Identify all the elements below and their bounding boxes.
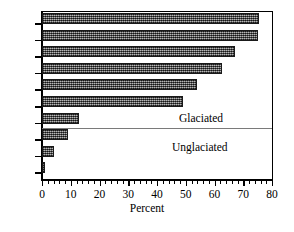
bar-fill: [42, 129, 68, 140]
x-tick-minor: [203, 180, 204, 184]
bar-dk: [42, 162, 45, 173]
x-tick-minor: [65, 180, 66, 184]
y-tick: [35, 156, 42, 158]
bar-df: [42, 46, 235, 57]
x-tick-minor: [123, 180, 124, 184]
x-tick-minor: [48, 180, 49, 184]
bar-ch: [42, 113, 79, 124]
bar-fl: [42, 96, 183, 107]
x-tick-major: [71, 180, 72, 186]
bar-ra: [42, 30, 258, 41]
bar-wf: [42, 63, 222, 74]
bar-fill: [42, 96, 183, 107]
x-tick-minor: [197, 180, 198, 184]
x-axis-title: Percent: [0, 202, 294, 214]
x-tick-label-30: 30: [113, 188, 143, 200]
x-tick-label-50: 50: [171, 188, 201, 200]
x-tick-label-60: 60: [200, 188, 230, 200]
x-tick-minor: [163, 180, 164, 184]
x-tick-minor: [140, 180, 141, 184]
bar-fill: [42, 113, 79, 124]
x-tick-minor: [220, 180, 221, 184]
x-tick-minor: [59, 180, 60, 184]
x-tick-minor: [134, 180, 135, 184]
x-tick-label-40: 40: [142, 188, 172, 200]
x-tick-minor: [82, 180, 83, 184]
y-tick: [35, 40, 42, 42]
annotation-unglaciated: Unglaciated: [172, 141, 228, 153]
bar-fill: [42, 146, 54, 157]
y-tick: [35, 56, 42, 58]
bar-sb: [42, 129, 68, 140]
bar-chart: TLRADFWFHFFLCHSBCPDK 01020304050607080 G…: [0, 0, 294, 232]
x-tick-minor: [77, 180, 78, 184]
bar-fill: [42, 162, 45, 173]
bar-hf: [42, 79, 197, 90]
bar-cp: [42, 146, 54, 157]
x-tick-label-70: 70: [228, 188, 258, 200]
x-tick-minor: [192, 180, 193, 184]
x-tick-minor: [88, 180, 89, 184]
y-tick: [35, 89, 42, 91]
x-tick-minor: [111, 180, 112, 184]
x-tick-minor: [151, 180, 152, 184]
x-tick-minor: [174, 180, 175, 184]
x-tick-label-20: 20: [85, 188, 115, 200]
bar-fill: [42, 30, 258, 41]
bar-tl: [42, 13, 259, 24]
x-tick-major: [128, 180, 129, 186]
x-tick-minor: [266, 180, 267, 184]
x-tick-minor: [232, 180, 233, 184]
x-tick-major: [100, 180, 101, 186]
x-tick-label-10: 10: [56, 188, 86, 200]
x-tick-minor: [180, 180, 181, 184]
x-tick-label-0: 0: [27, 188, 57, 200]
x-tick-major: [243, 180, 244, 186]
x-tick-minor: [209, 180, 210, 184]
x-tick-minor: [54, 180, 55, 184]
x-tick-major: [42, 180, 43, 186]
x-tick-minor: [226, 180, 227, 184]
x-tick-major: [215, 180, 216, 186]
x-tick-minor: [94, 180, 95, 184]
x-tick-label-80: 80: [257, 188, 287, 200]
y-tick: [35, 123, 42, 125]
x-tick-minor: [238, 180, 239, 184]
x-tick-minor: [105, 180, 106, 184]
y-tick: [35, 106, 42, 108]
x-tick-minor: [249, 180, 250, 184]
x-tick-minor: [146, 180, 147, 184]
y-tick: [35, 73, 42, 75]
annotation-glaciated: Glaciated: [179, 112, 223, 124]
x-tick-minor: [117, 180, 118, 184]
bar-fill: [42, 13, 259, 24]
y-tick: [35, 139, 42, 141]
x-tick-minor: [255, 180, 256, 184]
x-tick-minor: [169, 180, 170, 184]
bar-fill: [42, 79, 197, 90]
group-divider-line: [42, 128, 272, 129]
x-tick-major: [272, 180, 273, 186]
x-tick-major: [186, 180, 187, 186]
x-tick-major: [157, 180, 158, 186]
y-tick: [35, 172, 42, 174]
x-tick-minor: [261, 180, 262, 184]
bar-fill: [42, 46, 235, 57]
bar-fill: [42, 63, 222, 74]
y-tick: [35, 23, 42, 25]
